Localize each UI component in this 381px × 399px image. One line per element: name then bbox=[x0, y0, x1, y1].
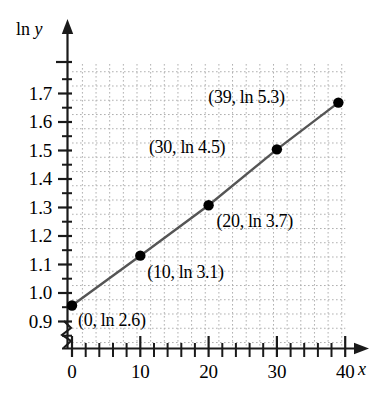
x-tick-label: 0 bbox=[47, 362, 97, 381]
data-point-marker bbox=[272, 144, 282, 154]
x-tick-label: 10 bbox=[115, 362, 165, 381]
y-axis-major-ticks bbox=[56, 62, 72, 322]
data-point-label: (30, ln 4.5) bbox=[149, 138, 225, 156]
y-tick-label: 1.3 bbox=[0, 198, 52, 217]
data-point-marker bbox=[203, 200, 213, 210]
y-tick-label: 1.5 bbox=[0, 141, 52, 160]
data-point-label: (10, ln 3.1) bbox=[147, 263, 223, 281]
y-tick-label: 1.4 bbox=[0, 169, 52, 188]
data-point-label: (39, ln 5.3) bbox=[208, 88, 284, 106]
y-tick-label: 1.2 bbox=[0, 226, 52, 245]
y-tick-label: 1.1 bbox=[0, 255, 52, 274]
y-tick-label: 1.6 bbox=[0, 112, 52, 131]
y-axis-title: ln y bbox=[16, 20, 43, 38]
data-point-marker bbox=[135, 250, 145, 260]
chart-figure: ln y x 0.91.01.11.21.31.41.51.61.7 01020… bbox=[0, 0, 381, 399]
x-tick-label: 30 bbox=[252, 362, 302, 381]
y-axis-title-roman: ln bbox=[16, 19, 30, 39]
x-tick-label: 40 bbox=[320, 362, 370, 381]
y-tick-label: 1.0 bbox=[0, 283, 52, 302]
y-axis-title-italic: y bbox=[35, 19, 43, 39]
chart-canvas bbox=[0, 0, 381, 399]
x-tick-label: 20 bbox=[184, 362, 234, 381]
data-point-marker bbox=[333, 97, 343, 107]
y-axis bbox=[62, 19, 73, 349]
data-point-label: (0, ln 2.6) bbox=[78, 311, 146, 329]
data-point-label: (20, ln 3.7) bbox=[217, 212, 293, 230]
y-tick-label: 1.7 bbox=[0, 84, 52, 103]
y-tick-label: 0.9 bbox=[0, 312, 52, 331]
data-point-marker bbox=[67, 300, 77, 310]
